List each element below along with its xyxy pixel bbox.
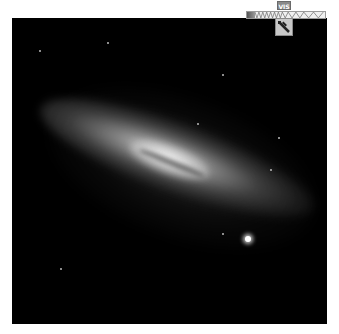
bright-star (245, 236, 251, 242)
star (270, 169, 272, 171)
star (107, 42, 109, 44)
telescope-icon (277, 20, 291, 34)
uv-segment (247, 12, 255, 18)
star (197, 123, 199, 125)
wavelength-slider-handle[interactable] (275, 18, 293, 36)
star (39, 50, 41, 52)
star (222, 74, 224, 76)
star (60, 268, 62, 270)
astronomy-image-viewer (12, 18, 327, 324)
star (222, 233, 224, 235)
star (278, 137, 280, 139)
wavelength-band-label: VIS (277, 1, 291, 10)
